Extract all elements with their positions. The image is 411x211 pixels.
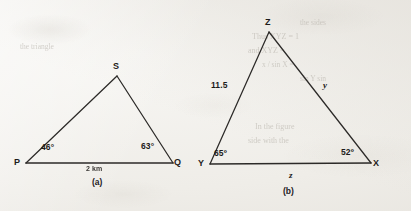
side-label-yx: z bbox=[289, 170, 293, 180]
angle-label-y: 65º bbox=[214, 148, 227, 158]
side-yz bbox=[210, 32, 269, 164]
angle-label-x: 52º bbox=[341, 147, 354, 157]
figure-b-drawing bbox=[193, 0, 411, 211]
side-ps bbox=[26, 76, 117, 163]
scanned-page: the sides Thus XYZ = 1 and XYZ = x / sin… bbox=[0, 0, 411, 211]
angle-label-p: 46° bbox=[41, 142, 54, 152]
side-yx bbox=[210, 163, 371, 164]
vertex-label-p: P bbox=[14, 157, 20, 167]
side-zx bbox=[269, 32, 371, 163]
side-label-zx: y bbox=[323, 80, 327, 90]
figure-a-triangle-pqs: P Q S 46° 63° 2 km (a) bbox=[0, 0, 200, 211]
side-label-yz: 11.5 bbox=[211, 80, 227, 90]
side-label-pq: 2 km bbox=[86, 165, 102, 172]
vertex-label-q: Q bbox=[174, 157, 181, 167]
vertex-label-z: Z bbox=[265, 17, 271, 27]
vertex-label-x: X bbox=[373, 158, 379, 168]
figure-b-caption: (b) bbox=[283, 186, 294, 196]
vertex-label-y: Y bbox=[198, 158, 204, 168]
figure-a-caption: (a) bbox=[92, 177, 102, 187]
figure-b-triangle-xyz: Y X Z 65º 52º 11.5 y z (b) bbox=[193, 0, 411, 211]
angle-label-q: 63° bbox=[141, 141, 154, 151]
vertex-label-s: S bbox=[113, 61, 119, 71]
